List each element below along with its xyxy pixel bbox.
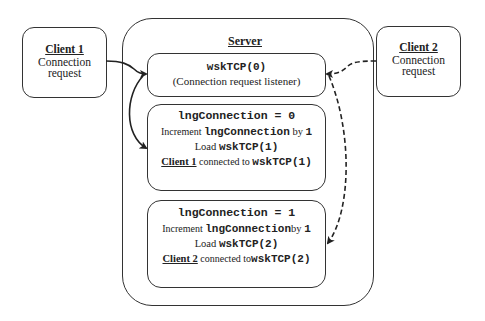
- connection-arrows: [0, 0, 485, 321]
- arrow-listener-to-box1: [129, 76, 146, 148]
- arrow-client2-to-listener: [327, 61, 376, 74]
- arrow-listener-to-box2: [328, 76, 346, 243]
- arrow-client1-to-listener: [106, 61, 146, 74]
